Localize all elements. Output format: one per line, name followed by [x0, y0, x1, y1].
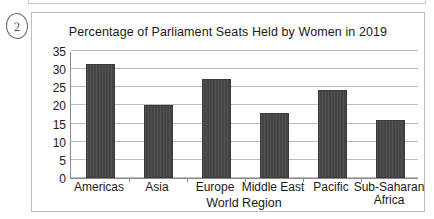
chart-container: Percentage of Parliament Seats Held by W… — [31, 12, 425, 212]
x-axis-tick-label-line: Asia — [145, 181, 168, 194]
x-axis-title: World Region — [70, 196, 418, 210]
bar — [376, 120, 405, 178]
plot-area — [70, 52, 418, 179]
y-axis-tick-labels: 05101520253035 — [36, 52, 66, 179]
x-axis-tick-label-line: Pacific — [313, 181, 348, 194]
bar — [144, 105, 173, 178]
x-axis-tick-label: Pacific — [313, 181, 348, 194]
bar — [86, 64, 115, 178]
bar-series — [71, 52, 418, 178]
x-axis-tick-label: Middle East — [242, 181, 305, 194]
x-axis-tick-label: Europe — [196, 181, 235, 194]
y-axis-tick-label: 30 — [53, 64, 66, 76]
clipped-box-edge — [28, 0, 426, 4]
y-axis-tick-label: 0 — [59, 173, 66, 185]
x-axis-tick-label-line: Europe — [196, 181, 235, 194]
x-axis-tick-label: Americas — [74, 181, 124, 194]
x-axis-tick-label-line: Americas — [74, 181, 124, 194]
x-axis-tick-label: Asia — [145, 181, 168, 194]
y-axis-tick-label: 5 — [59, 155, 66, 167]
y-axis-tick-label: 20 — [53, 100, 66, 112]
y-axis-tick-label: 10 — [53, 137, 66, 149]
bar — [318, 90, 347, 178]
question-number-badge: 2 — [5, 12, 29, 39]
plot-wrapper: 05101520253035 AmericasAsiaEuropeMiddle … — [32, 13, 424, 211]
y-axis-tick-label: 25 — [53, 82, 66, 94]
x-axis-tick-label-line: Middle East — [242, 181, 305, 194]
y-axis-tick-label: 15 — [53, 119, 66, 131]
y-axis-tick-label: 35 — [53, 46, 66, 58]
bar — [202, 79, 231, 178]
gridline — [71, 50, 418, 51]
bar — [260, 113, 289, 178]
